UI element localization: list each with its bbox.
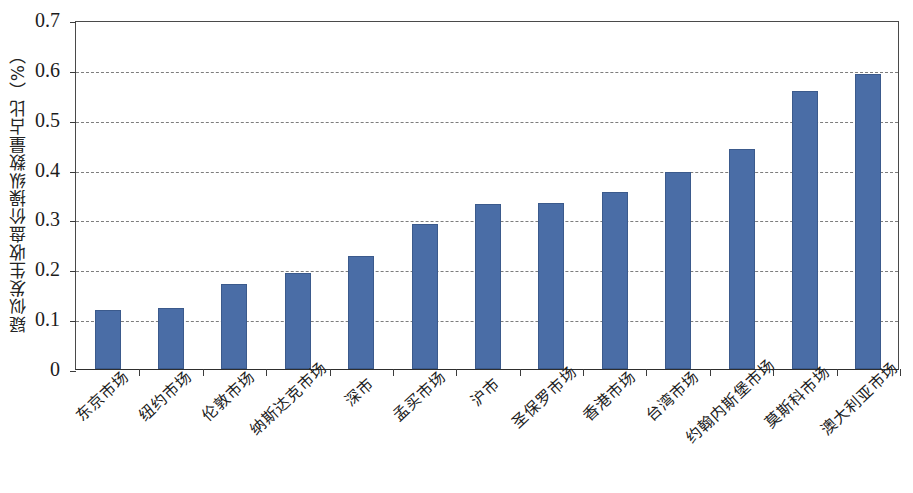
- x-tick-mark: [583, 369, 584, 376]
- gridline: [76, 172, 898, 173]
- x-tick-mark: [520, 369, 521, 376]
- y-tick-mark: [70, 371, 76, 372]
- y-tick-mark: [70, 221, 76, 222]
- y-tick-label: 0: [14, 359, 60, 379]
- bar: [855, 74, 881, 369]
- bar: [348, 256, 374, 369]
- x-category-label: 纽约市场: [133, 364, 196, 425]
- bar: [95, 310, 121, 369]
- y-tick-label: 0.2: [14, 259, 60, 279]
- x-tick-mark: [203, 369, 204, 376]
- y-tick-mark: [70, 122, 76, 123]
- bar: [602, 192, 628, 369]
- x-tick-mark: [266, 369, 267, 376]
- y-tick-mark: [70, 271, 76, 272]
- y-axis-title-text: 疑似发生收盘价操纵数量占比（%）: [5, 46, 30, 333]
- bar: [729, 149, 755, 369]
- bar: [412, 224, 438, 369]
- bar-chart-figure: 疑似发生收盘价操纵数量占比（%） 0.70.60.50.40.30.20.10 …: [0, 0, 913, 493]
- y-tick-mark: [70, 22, 76, 23]
- x-tick-mark: [710, 369, 711, 376]
- x-category-label: 台湾市场: [640, 364, 703, 425]
- y-tick-mark: [70, 172, 76, 173]
- y-tick-mark: [70, 321, 76, 322]
- gridline: [76, 72, 898, 73]
- y-tick-label: 0.5: [14, 110, 60, 130]
- y-tick-label: 0.7: [14, 10, 60, 30]
- x-category-label: 香港市场: [577, 364, 640, 425]
- plot-area: [75, 21, 899, 370]
- x-category-label: 圣保罗市场: [506, 360, 581, 432]
- x-category-label: 孟买市场: [387, 364, 450, 425]
- gridline: [76, 122, 898, 123]
- bar: [221, 284, 247, 369]
- x-category-label: 深市: [339, 372, 378, 410]
- bar: [285, 273, 311, 369]
- y-tick-label: 0.6: [14, 60, 60, 80]
- x-tick-mark: [393, 369, 394, 376]
- y-tick-mark: [70, 72, 76, 73]
- bar: [538, 203, 564, 369]
- bar: [665, 172, 691, 369]
- bar: [475, 204, 501, 369]
- x-tick-mark: [139, 369, 140, 376]
- x-tick-mark: [646, 369, 647, 376]
- y-tick-label: 0.1: [14, 309, 60, 329]
- x-category-label: 东京市场: [70, 364, 133, 425]
- bar: [792, 91, 818, 369]
- y-tick-label: 0.3: [14, 209, 60, 229]
- x-tick-mark: [837, 369, 838, 376]
- x-category-label: 沪市: [465, 372, 504, 410]
- y-tick-label: 0.4: [14, 160, 60, 180]
- bar: [158, 308, 184, 369]
- x-tick-mark: [456, 369, 457, 376]
